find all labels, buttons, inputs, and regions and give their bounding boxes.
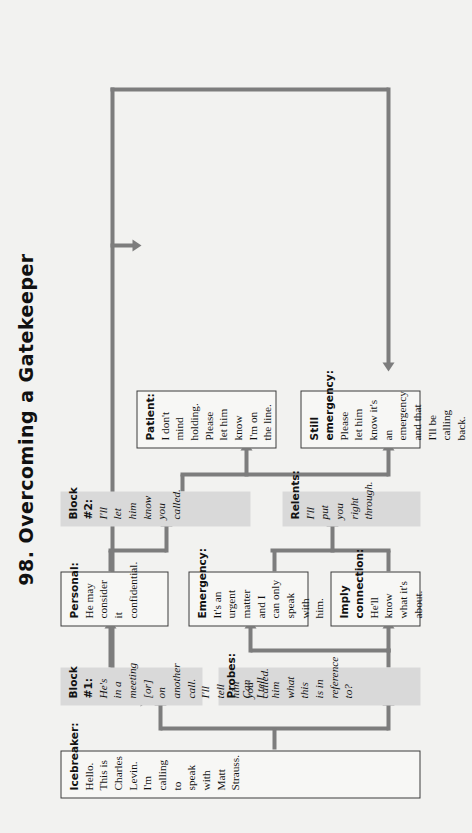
node-imply-connection-label: Imply connection: [337, 548, 364, 618]
node-block2-label: Block #2: [66, 487, 93, 519]
diagram-page: 98. Overcoming a Gatekeeper [0, 0, 472, 833]
node-block2[interactable]: Block #2: I'll let him know you called. [60, 491, 250, 526]
node-emergency-text: It's an urgent matter and I can only spe… [210, 579, 325, 618]
connector-to-emergency [248, 626, 252, 652]
node-relents[interactable]: Relents: I'll put you right through. [282, 491, 420, 526]
connector-to-imply [386, 626, 390, 652]
node-still-emergency[interactable]: Still emergency: Please let him know it'… [300, 390, 420, 448]
node-imply-connection-text: He'll know what it's about. [367, 581, 423, 619]
node-personal[interactable]: Personal: He may consider it confidentia… [60, 571, 168, 626]
connector-to-relents [330, 524, 334, 552]
node-relents-text: I'll put you right through. [303, 481, 374, 519]
node-still-emergency-text: Please let him know it's an emergency an… [337, 391, 466, 440]
node-icebreaker-text: Hello. This is Charles Levin. I'm callin… [82, 755, 241, 790]
connector-imply-out [386, 550, 390, 571]
node-patient-text: I don't mind holding. Please let him kno… [158, 403, 273, 440]
node-icebreaker-label: Icebreaker: [67, 722, 79, 790]
connector-to-probes [386, 703, 390, 730]
flowchart-canvas: 98. Overcoming a Gatekeeper [0, 0, 472, 833]
node-block1-label: Block #1: [66, 666, 93, 698]
arrowhead-loop-into-patient [132, 239, 141, 251]
connector-loop-bottom [386, 87, 390, 363]
connector-mid-spine-upper [108, 548, 166, 552]
connector-loop-right [110, 87, 388, 91]
connector-right-spine [180, 472, 388, 476]
connector-to-still-emergency [386, 448, 390, 476]
connector-icebreaker-out [272, 728, 276, 749]
node-icebreaker[interactable]: Icebreaker: Hello. This is Charles Levin… [60, 750, 420, 798]
node-emergency-label: Emergency: [195, 548, 207, 618]
node-block1[interactable]: Block #1: He's in a meeting [or] on anot… [60, 667, 202, 705]
arrowhead-loop-return [382, 362, 394, 371]
node-personal-label: Personal: [67, 562, 79, 618]
connector-emergency-out [272, 550, 276, 571]
node-block2-text: I'll let him know you called. [96, 489, 181, 519]
node-imply-connection[interactable]: Imply connection: He'll know what it's a… [330, 571, 420, 626]
node-patient-label: Patient: [143, 393, 155, 440]
node-relents-label: Relents: [288, 470, 300, 519]
node-emergency[interactable]: Emergency: It's an urgent matter and I c… [188, 571, 308, 626]
connector-to-block1 [158, 703, 162, 730]
connector-to-patient [244, 448, 248, 476]
page-title: 98. Overcoming a Gatekeeper [14, 39, 36, 799]
connector-to-block2 [164, 524, 168, 552]
connector-probes-spine [250, 648, 390, 652]
node-still-emergency-label: Still emergency: [307, 370, 334, 440]
node-patient[interactable]: Patient: I don't mind holding. Please le… [136, 390, 276, 448]
